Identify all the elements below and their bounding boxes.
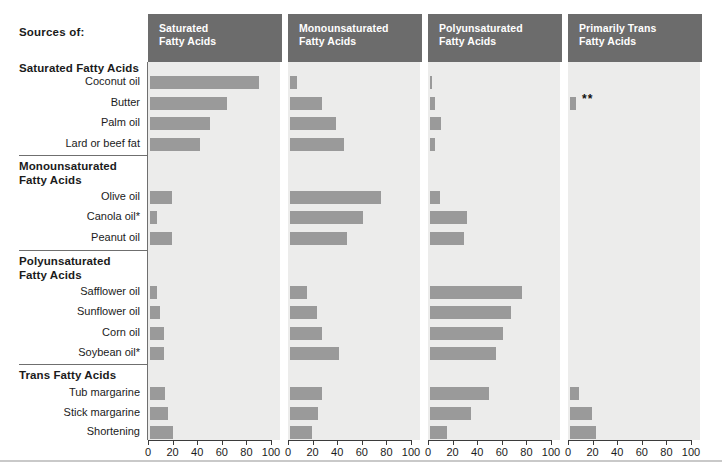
tick-80	[386, 440, 387, 445]
bar-tub-margarine-p2	[290, 387, 322, 400]
tick-label-40: 40	[191, 446, 203, 458]
bar-stick-margarine-p1	[150, 407, 168, 420]
bar-canola-oil-p3	[430, 211, 467, 224]
bar-sunflower-oil-p2	[290, 306, 317, 319]
tick-label-0: 0	[145, 446, 151, 458]
bar-butter-p3	[430, 97, 435, 110]
tick-label-60: 60	[356, 446, 368, 458]
bar-corn-oil-p1	[150, 327, 164, 340]
row-label-lard-or-beef-fat: Lard or beef fat	[65, 137, 140, 149]
bar-shortening-p3	[430, 426, 447, 439]
bar-stick-margarine-p4	[570, 407, 592, 420]
panel-saturated-fatty-acids: Saturated Fatty Acids020406080100	[148, 0, 280, 440]
tick-0	[148, 440, 149, 445]
tick-60	[222, 440, 223, 445]
bar-palm-oil-p1	[150, 117, 210, 130]
tick-80	[526, 440, 527, 445]
bar-tub-margarine-p1	[150, 387, 165, 400]
tick-60	[502, 440, 503, 445]
bar-peanut-oil-p1	[150, 232, 172, 245]
bar-lard-or-beef-fat-p2	[290, 138, 344, 151]
tick-40	[337, 440, 338, 445]
bar-palm-oil-p3	[430, 117, 441, 130]
axis-line	[288, 440, 411, 441]
bar-coconut-oil-p1	[150, 76, 259, 89]
divider-2	[19, 250, 148, 251]
panel-header-3: Polyunsaturated Fatty Acids	[428, 14, 562, 62]
tick-60	[642, 440, 643, 445]
tick-label-0: 0	[425, 446, 431, 458]
tick-label-80: 80	[520, 446, 532, 458]
bar-butter-p1	[150, 97, 227, 110]
bar-olive-oil-p2	[290, 191, 381, 204]
tick-100	[691, 440, 692, 445]
bar-olive-oil-p1	[150, 191, 172, 204]
tick-20	[453, 440, 454, 445]
bar-soybean-oil-p3	[430, 347, 496, 360]
bar-corn-oil-p3	[430, 327, 503, 340]
bar-sunflower-oil-p1	[150, 306, 160, 319]
bar-tub-margarine-p3	[430, 387, 489, 400]
row-label-sunflower-oil: Sunflower oil	[77, 305, 140, 317]
bar-stick-margarine-p2	[290, 407, 318, 420]
bar-shortening-p1	[150, 426, 173, 439]
row-label-butter: Butter	[111, 96, 140, 108]
bar-lard-or-beef-fat-p3	[430, 138, 435, 151]
tick-20	[593, 440, 594, 445]
bar-lard-or-beef-fat-p1	[150, 138, 200, 151]
bar-butter-p2	[290, 97, 322, 110]
bar-sunflower-oil-p3	[430, 306, 511, 319]
row-label-soybean-oil: Soybean oil*	[78, 346, 140, 358]
bar-stick-margarine-p3	[430, 407, 471, 420]
bar-soybean-oil-p2	[290, 347, 339, 360]
bar-coconut-oil-p2	[290, 76, 297, 89]
tick-80	[246, 440, 247, 445]
tick-20	[313, 440, 314, 445]
tick-label-0: 0	[565, 446, 571, 458]
sources-of-title: Sources of:	[19, 26, 84, 38]
tick-100	[551, 440, 552, 445]
row-label-tub-margarine: Tub margarine	[69, 386, 140, 398]
tick-80	[666, 440, 667, 445]
panel-primarily-trans-fatty-acids: Primarily Trans Fatty Acids**02040608010…	[568, 0, 700, 440]
bar-coconut-oil-p3	[430, 76, 432, 89]
bar-shortening-p4	[570, 426, 596, 439]
tick-label-20: 20	[586, 446, 598, 458]
bar-canola-oil-p2	[290, 211, 363, 224]
tick-100	[411, 440, 412, 445]
group-title-polyunsaturated: Polyunsaturated Fatty Acids	[19, 255, 111, 282]
tick-100	[271, 440, 272, 445]
tick-label-40: 40	[331, 446, 343, 458]
tick-60	[362, 440, 363, 445]
row-label-stick-margarine: Stick margarine	[64, 406, 140, 418]
axis-line	[568, 440, 691, 441]
tick-label-100: 100	[262, 446, 280, 458]
tick-label-80: 80	[380, 446, 392, 458]
bar-canola-oil-p1	[150, 211, 157, 224]
axis-line	[148, 440, 271, 441]
divider-3	[19, 364, 148, 365]
panel-header-4: Primarily Trans Fatty Acids	[568, 14, 702, 62]
bar-olive-oil-p3	[430, 191, 440, 204]
tick-label-60: 60	[496, 446, 508, 458]
row-label-peanut-oil: Peanut oil	[91, 231, 140, 243]
tick-label-100: 100	[402, 446, 420, 458]
tick-label-0: 0	[285, 446, 291, 458]
panel-header-1: Saturated Fatty Acids	[148, 14, 282, 62]
tick-label-60: 60	[216, 446, 228, 458]
tick-label-40: 40	[471, 446, 483, 458]
footer-rule	[0, 460, 722, 462]
tick-40	[477, 440, 478, 445]
row-label-olive-oil: Olive oil	[101, 190, 140, 202]
tick-label-20: 20	[166, 446, 178, 458]
tick-label-80: 80	[660, 446, 672, 458]
bar-tub-margarine-p4	[570, 387, 579, 400]
bar-palm-oil-p2	[290, 117, 336, 130]
divider-1	[19, 155, 148, 156]
label-column: Sources of: Saturated Fatty Acids Coconu…	[0, 0, 148, 440]
axis-line	[428, 440, 551, 441]
tick-label-60: 60	[636, 446, 648, 458]
group-title-trans: Trans Fatty Acids	[19, 369, 116, 383]
bar-peanut-oil-p3	[430, 232, 464, 245]
row-label-corn-oil: Corn oil	[102, 326, 140, 338]
